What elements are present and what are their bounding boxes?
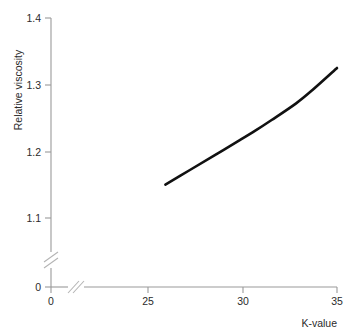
y-tick-label-1-4: 1.4	[26, 12, 41, 24]
y-tick-label-1-1: 1.1	[26, 212, 41, 224]
relative-viscosity-line-chart: 1.4 1.3 1.2 1.1 0 0 25 30 35 Relative vi…	[0, 0, 360, 334]
x-tick-label-0: 0	[48, 295, 54, 307]
y-tick-label-1-3: 1.3	[26, 79, 41, 91]
x-axis-title: K-value	[301, 317, 337, 329]
chart-background	[0, 0, 360, 334]
y-axis-title: Relative viscosity	[12, 49, 24, 130]
chart-figure: 1.4 1.3 1.2 1.1 0 0 25 30 35 Relative vi…	[0, 0, 360, 334]
y-tick-label-0: 0	[35, 281, 41, 293]
x-tick-label-25: 25	[142, 295, 154, 307]
x-tick-label-35: 35	[331, 295, 343, 307]
x-tick-label-30: 30	[237, 295, 249, 307]
y-tick-label-1-2: 1.2	[26, 146, 41, 158]
